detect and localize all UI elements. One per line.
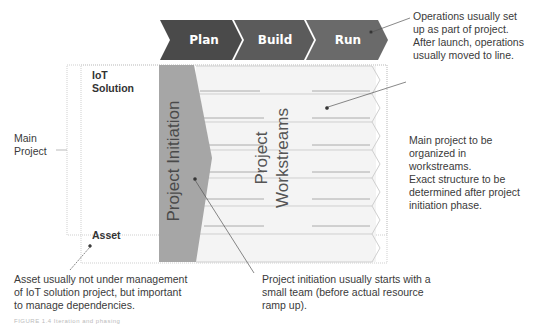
- figure-caption: FIGURE 1.4 Iteration and phasing: [14, 318, 120, 324]
- operations-note: Operations usually setup as part of proj…: [413, 10, 524, 62]
- phase-run-label: Run: [316, 33, 380, 47]
- main-project-label: Main Project: [14, 132, 47, 158]
- phase-plan-label: Plan: [172, 33, 236, 47]
- main-project-note: Main project to beorganized in workstrea…: [409, 134, 520, 212]
- asset-arrow: [70, 247, 90, 270]
- asset-note: Asset usually not under managementof IoT…: [14, 273, 187, 312]
- asset-label: Asset: [92, 229, 121, 242]
- project-workstreams-label: Project Workstreams: [251, 103, 295, 213]
- phase-build-label: Build: [244, 33, 306, 47]
- iot-solution-label: IoT Solution: [92, 69, 134, 95]
- project-initiation-label: Project Initiation: [163, 91, 185, 231]
- initiation-note: Project initiation usually starts with a…: [262, 273, 431, 312]
